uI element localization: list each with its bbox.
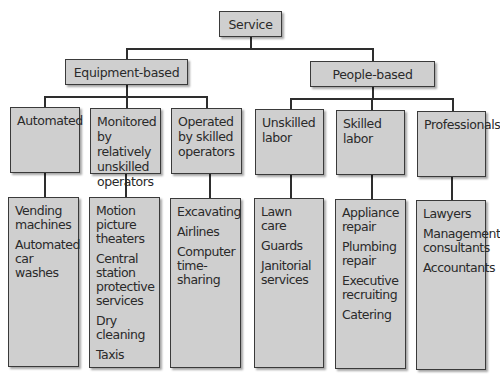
category-node-skilled-labor: Skilled labor — [336, 110, 405, 175]
example-item: Appliance repair — [342, 206, 401, 234]
connector-professionals-drop — [452, 98, 454, 111]
example-item: Taxis — [96, 348, 155, 362]
category-label: Operated by skilled operators — [178, 114, 235, 159]
example-item: Central station protective services — [96, 252, 155, 308]
examples-unskilled-labor: Lawn care Guards Janitorial services — [254, 198, 324, 368]
branch-label: People-based — [332, 67, 412, 82]
example-item: Catering — [342, 308, 401, 322]
example-item: Accountants — [423, 261, 481, 275]
category-node-operated: Operated by skilled operators — [171, 108, 242, 174]
example-item: Computer time-sharing — [177, 245, 236, 287]
category-node-professionals: Professionals — [417, 111, 486, 177]
category-label: Monitored by relatively unskilled operat… — [97, 114, 156, 189]
category-label: Skilled labor — [343, 116, 381, 146]
category-label: Unskilled labor — [262, 115, 315, 145]
example-item: Management consultants — [423, 227, 481, 255]
connector-operated-drop — [206, 96, 208, 108]
category-node-monitored: Monitored by relatively unskilled operat… — [90, 108, 161, 174]
category-label: Professionals — [424, 117, 500, 132]
category-node-unskilled-labor: Unskilled labor — [255, 109, 324, 175]
connector-people-drop — [372, 48, 374, 62]
example-item: Executive recruiting — [342, 274, 401, 302]
example-item: Guards — [261, 239, 319, 253]
connector-automated-down — [44, 173, 46, 197]
branch-node-people-based: People-based — [310, 61, 435, 87]
example-item: Janitorial services — [261, 259, 319, 287]
examples-automated: Vending machines Automated car washes — [8, 197, 79, 367]
examples-monitored: Motion picture theaters Central station … — [89, 197, 160, 368]
connector-root-bar — [126, 48, 373, 50]
category-node-automated: Automated — [10, 107, 80, 173]
connector-operated-down — [209, 174, 211, 199]
example-item: Dry cleaning — [96, 314, 155, 342]
connector-skilled-drop — [371, 98, 373, 110]
connector-unskilled-down — [290, 175, 292, 199]
root-label: Service — [228, 17, 272, 32]
connector-professionals-down — [451, 177, 453, 200]
examples-operated: Excavating Airlines Computer time-sharin… — [170, 198, 241, 368]
example-item: Lawn care — [261, 205, 319, 233]
example-item: Automated car washes — [15, 238, 74, 280]
category-label: Automated — [17, 113, 83, 128]
connector-unskilled-drop — [290, 98, 292, 109]
example-item: Airlines — [177, 225, 236, 239]
example-item: Lawyers — [423, 207, 481, 221]
example-item: Motion picture theaters — [96, 204, 155, 246]
examples-skilled-labor: Appliance repair Plumbing repair Executi… — [335, 199, 406, 369]
branch-node-equipment-based: Equipment-based — [65, 59, 188, 85]
example-item: Vending machines — [15, 204, 74, 232]
connector-monitored-drop — [126, 96, 128, 108]
examples-professionals: Lawyers Management consultants Accountan… — [416, 200, 486, 370]
connector-skilled-down — [371, 175, 373, 199]
root-node-service: Service — [219, 11, 282, 37]
example-item: Plumbing repair — [342, 240, 401, 268]
connector-automated-drop — [44, 96, 46, 107]
example-item: Excavating — [177, 205, 236, 219]
branch-label: Equipment-based — [74, 65, 180, 80]
